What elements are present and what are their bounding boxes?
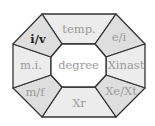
cell-e-i-label: e/i [112, 30, 127, 44]
center-label: degree [58, 58, 99, 72]
cell-m-i-label: m.i. [20, 58, 42, 72]
cell-degree-center[interactable]: degree [51, 44, 106, 87]
cell-xr-label: Xr [72, 96, 86, 110]
cell-xe-xt-label: Xe/Xt [105, 84, 137, 98]
octagon-diagram: temp. e/i Xinast Xe/Xt Xr m/f m.i. i/v d… [0, 0, 155, 126]
cell-m-f-label: m/f [25, 85, 45, 99]
cell-i-v-label: i/v [30, 32, 46, 46]
cell-temp-label: temp. [62, 22, 95, 36]
cell-xinast-label: Xinast [108, 58, 145, 72]
